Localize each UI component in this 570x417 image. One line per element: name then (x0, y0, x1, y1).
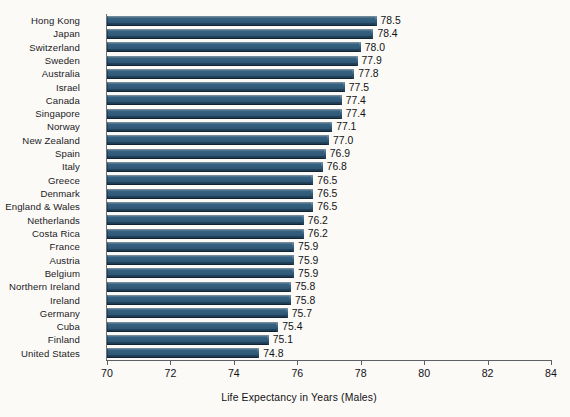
bar (107, 175, 313, 185)
bar (107, 149, 326, 159)
bar-fill (107, 29, 373, 39)
bar-row: Switzerland78.0 (107, 41, 551, 54)
value-label: 76.2 (308, 227, 328, 240)
bar-row: England & Wales76.5 (107, 200, 551, 213)
bar (107, 42, 361, 52)
category-label: Hong Kong (0, 14, 80, 27)
bar-fill (107, 348, 259, 358)
bar-fill (107, 42, 361, 52)
value-label: 75.8 (295, 280, 315, 293)
bar-row: Germany75.7 (107, 307, 551, 320)
category-label: Sweden (0, 54, 80, 67)
bar (107, 295, 291, 305)
bar (107, 229, 304, 239)
category-label: Belgium (0, 267, 80, 280)
value-label: 78.5 (381, 14, 401, 27)
bar-fill (107, 202, 313, 212)
category-label: Finland (0, 333, 80, 346)
bar (107, 122, 332, 132)
value-label: 77.8 (358, 67, 378, 80)
bar (107, 95, 342, 105)
plot-area: Hong Kong78.5Japan78.4Switzerland78.0Swe… (107, 14, 551, 360)
x-axis-tick-label: 70 (101, 367, 113, 380)
value-label: 76.8 (327, 160, 347, 173)
category-label: New Zealand (0, 134, 80, 147)
bar-row: Israel77.5 (107, 81, 551, 94)
bar-row: Hong Kong78.5 (107, 14, 551, 27)
bar (107, 308, 288, 318)
bar-row: Austria75.9 (107, 254, 551, 267)
bar (107, 189, 313, 199)
x-axis-tick-label: 82 (482, 367, 494, 380)
bar (107, 242, 294, 252)
x-axis-line (106, 360, 552, 361)
bar (107, 82, 345, 92)
value-label: 75.9 (298, 254, 318, 267)
value-label: 75.9 (298, 240, 318, 253)
bar-row: Costa Rica76.2 (107, 227, 551, 240)
value-label: 75.7 (292, 307, 312, 320)
bar-fill (107, 16, 377, 26)
bar-row: France75.9 (107, 240, 551, 253)
bar-row: Netherlands76.2 (107, 214, 551, 227)
x-axis-tick (170, 360, 171, 365)
bar (107, 335, 269, 345)
category-label: Norway (0, 120, 80, 133)
bar-row: Australia77.8 (107, 67, 551, 80)
bar-row: Canada77.4 (107, 94, 551, 107)
value-label: 74.8 (263, 347, 283, 360)
bar (107, 29, 373, 39)
value-label: 76.5 (317, 187, 337, 200)
bar-fill (107, 215, 304, 225)
x-axis-tick-label: 74 (228, 367, 240, 380)
bar-row: Spain76.9 (107, 147, 551, 160)
bar-row: Northern Ireland75.8 (107, 280, 551, 293)
x-axis-tick-label: 72 (165, 367, 177, 380)
value-label: 75.4 (282, 320, 302, 333)
value-label: 76.9 (330, 147, 350, 160)
category-label: Costa Rica (0, 227, 80, 240)
bar (107, 282, 291, 292)
x-axis-tick (234, 360, 235, 365)
value-label: 75.9 (298, 267, 318, 280)
category-label: United States (0, 347, 80, 360)
bar-row: Singapore77.4 (107, 107, 551, 120)
category-label: Denmark (0, 187, 80, 200)
category-label: Singapore (0, 107, 80, 120)
bar (107, 268, 294, 278)
bar-fill (107, 295, 291, 305)
x-axis-tick (297, 360, 298, 365)
value-label: 75.1 (273, 333, 293, 346)
category-label: England & Wales (0, 200, 80, 213)
bar-chart: Hong Kong78.5Japan78.4Switzerland78.0Swe… (0, 0, 570, 417)
bar-fill (107, 268, 294, 278)
x-axis-tick-label: 78 (355, 367, 367, 380)
bar-fill (107, 82, 345, 92)
value-label: 76.5 (317, 174, 337, 187)
bar-fill (107, 229, 304, 239)
bar (107, 215, 304, 225)
category-label: Greece (0, 174, 80, 187)
bar-row: United States74.8 (107, 347, 551, 360)
value-label: 77.4 (346, 107, 366, 120)
bar-fill (107, 308, 288, 318)
x-axis-tick (107, 360, 108, 365)
bar-fill (107, 282, 291, 292)
bar-row: Japan78.4 (107, 27, 551, 40)
category-label: France (0, 240, 80, 253)
category-label: Switzerland (0, 41, 80, 54)
x-axis-tick-label: 84 (545, 367, 557, 380)
x-axis-tick (551, 360, 552, 365)
category-label: Ireland (0, 294, 80, 307)
bar (107, 348, 259, 358)
x-axis-tick (488, 360, 489, 365)
bar-fill (107, 162, 323, 172)
bar-fill (107, 149, 326, 159)
bar (107, 56, 358, 66)
bar-fill (107, 109, 342, 119)
value-label: 77.4 (346, 94, 366, 107)
value-label: 77.5 (349, 81, 369, 94)
x-axis-tick-label: 80 (418, 367, 430, 380)
x-axis-title: Life Expectancy in Years (Males) (0, 392, 570, 403)
bar-row: Ireland75.8 (107, 294, 551, 307)
